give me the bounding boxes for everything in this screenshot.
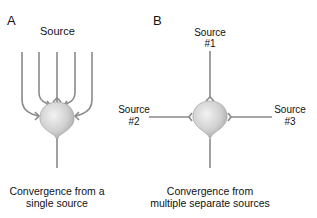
source3-label-line1: Source [268, 104, 312, 115]
panel-b-letter: B [153, 13, 162, 28]
source2-label-line1: Source [112, 104, 156, 115]
panel-a-caption-line2: single source [4, 198, 110, 209]
panel-b-caption-line2: multiple separate sources [150, 198, 270, 209]
source2-label-line2: #2 [112, 116, 156, 127]
source1-label-line1: Source [186, 27, 234, 38]
panel-a-source-label: Source [40, 26, 75, 37]
source3-label-line2: #3 [268, 116, 312, 127]
source1-label-line2: #1 [186, 38, 234, 49]
panel-a-soma [40, 102, 74, 140]
panel-b-caption-line1: Convergence from [150, 186, 270, 197]
panel-a-caption-line1: Convergence from a [4, 186, 110, 197]
panel-a-letter: A [7, 13, 16, 28]
panel-b-soma [193, 101, 227, 139]
